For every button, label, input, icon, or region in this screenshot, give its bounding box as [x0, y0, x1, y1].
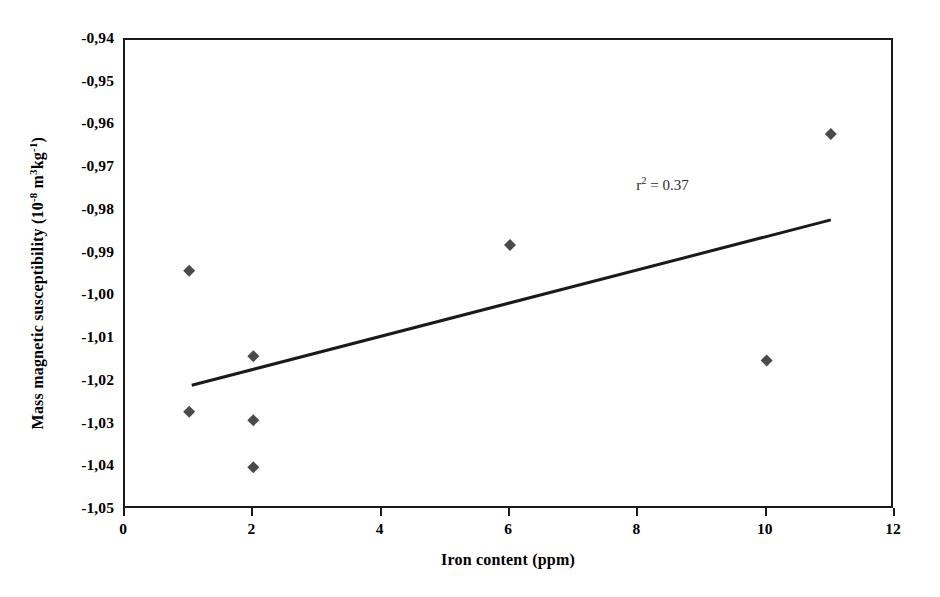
y-axis-tick-label: -1,02: [81, 371, 114, 389]
data-point-marker: [183, 265, 195, 277]
y-axis-title-exp2: 3: [27, 169, 39, 175]
x-axis-tick-label: 12: [885, 520, 901, 538]
y-axis-tick-label: -0,94: [81, 29, 114, 47]
y-axis-tick-labels: -0,94-0,95-0,96-0,97-0,98-0,99-1,00-1,01…: [0, 0, 114, 597]
y-axis-tick-label: -0,99: [81, 243, 114, 261]
y-axis-title-exp3: -1: [27, 142, 39, 151]
x-axis-tick-label: 2: [247, 520, 255, 538]
y-axis-tick-label: -1,01: [81, 328, 114, 346]
r-squared-annotation: r2 = 0.37: [636, 175, 688, 194]
y-axis-title-unit: kg: [29, 152, 46, 169]
y-axis-title-exp1: -8: [27, 193, 39, 202]
y-axis-tick-label: -0,97: [81, 157, 114, 175]
data-points: [183, 128, 837, 473]
y-axis-tick-label: -0,95: [81, 72, 114, 90]
y-axis-title: Mass magnetic susceptibility (10-8 m3kg-…: [27, 73, 47, 493]
plot-area: [123, 38, 893, 508]
x-axis-tick-label: 10: [757, 520, 773, 538]
y-axis-title-main: Mass magnetic susceptibility (10: [29, 202, 46, 429]
r2-suffix: = 0.37: [647, 177, 689, 193]
x-axis-title: Iron content (ppm): [123, 551, 893, 569]
x-axis-tick-label: 6: [504, 520, 512, 538]
y-axis-title-close: ): [29, 137, 46, 143]
y-axis-title-mid: m: [29, 175, 46, 193]
data-point-marker: [247, 350, 259, 362]
y-axis-tick-label: -0,96: [81, 114, 114, 132]
data-point-marker: [504, 239, 516, 251]
y-axis-tick-label: -1,05: [81, 499, 114, 517]
x-axis-tick-label: 8: [632, 520, 640, 538]
data-point-marker: [761, 354, 773, 366]
data-point-marker: [825, 128, 837, 140]
chart-figure: -0,94-0,95-0,96-0,97-0,98-0,99-1,00-1,01…: [0, 0, 940, 597]
y-axis-tick-label: -1,03: [81, 414, 114, 432]
data-point-marker: [247, 461, 259, 473]
x-axis-tick-label: 4: [376, 520, 384, 538]
y-axis-tick-label: -1,00: [81, 285, 114, 303]
y-axis-tick-label: -0,98: [81, 200, 114, 218]
y-axis-tick-label: -1,04: [81, 456, 114, 474]
plot-canvas: [125, 40, 895, 510]
data-point-marker: [183, 406, 195, 418]
data-point-marker: [247, 414, 259, 426]
x-axis-tick-label: 0: [119, 520, 127, 538]
